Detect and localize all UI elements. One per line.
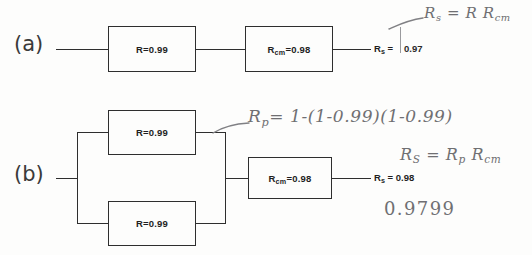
wire-b-bottom-in (77, 223, 108, 224)
row-label-a: (a) (14, 32, 43, 56)
wire-b-output (332, 178, 371, 179)
output-label-a: Rs = (374, 43, 393, 54)
annotation-b-rs-formula: RS = Rp Rcm (400, 145, 501, 164)
block-b-r-bottom: R=0.99 (108, 201, 196, 246)
block-b-r-bottom-label: R=0.99 (136, 218, 168, 229)
wire-a-output (333, 49, 371, 50)
output-label-b: Rs = 0.98 (374, 172, 414, 183)
block-b-r-top: R=0.99 (108, 110, 196, 155)
rail-b-left (77, 132, 78, 223)
block-a-rcm-label: Rcm=0.98 (268, 44, 311, 55)
wire-b-bottom-out (196, 223, 226, 224)
annotation-b-result: 0.9799 (384, 198, 455, 219)
figure-canvas: (a) R=0.99 Rcm=0.98 Rs = 0.97 Rs = R Rcm… (0, 0, 532, 255)
leader-line-b (212, 121, 250, 134)
wire-b-top-in (77, 132, 108, 133)
leader-line-a (388, 16, 424, 30)
row-label-b: (b) (14, 162, 44, 186)
annotation-a-formula: Rs = R Rcm (424, 4, 511, 22)
block-b-rcm-label: Rcm=0.98 (269, 173, 312, 184)
wire-a-input (56, 49, 108, 50)
block-a-r-label: R=0.99 (136, 44, 168, 55)
block-a-rcm: Rcm=0.98 (245, 26, 333, 72)
block-a-r: R=0.99 (108, 26, 196, 72)
wire-b-mid (225, 178, 248, 179)
block-b-rcm: Rcm=0.98 (248, 157, 332, 199)
annotation-b-rp-formula: Rp= 1-(1-0.99)(1-0.99) (248, 106, 453, 126)
wire-b-input (56, 178, 78, 179)
pencil-stroke-a (400, 27, 401, 53)
output-value-a: 0.97 (404, 43, 423, 54)
block-b-r-top-label: R=0.99 (136, 127, 168, 138)
wire-a-mid (196, 49, 245, 50)
